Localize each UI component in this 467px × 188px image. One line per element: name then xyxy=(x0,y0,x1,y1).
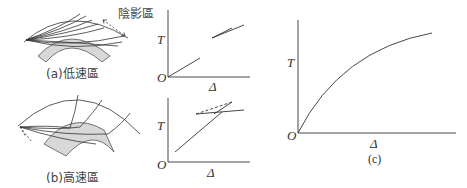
direct-branch xyxy=(168,58,200,77)
panel-a-x-label: Δ xyxy=(209,79,217,95)
panel-b-y-label: T xyxy=(157,118,164,134)
direct-branch xyxy=(175,112,222,152)
panel-a-origin-label: O xyxy=(157,70,166,86)
panel-c-y-label: T xyxy=(287,55,294,71)
panel-a-y-label: T xyxy=(157,32,164,48)
axes xyxy=(298,20,456,133)
axes xyxy=(168,98,250,162)
panel-b-origin-label: O xyxy=(157,157,166,173)
panel-b-x-label: Δ xyxy=(207,165,215,181)
panel-c-graph xyxy=(298,20,456,133)
panel-b-graph xyxy=(168,98,250,162)
panel-b-caption: (b)高速區 xyxy=(46,168,99,185)
panel-c-caption: (c) xyxy=(368,152,381,167)
panel-a-graph xyxy=(168,10,250,77)
panel-c-origin-label: O xyxy=(287,128,296,144)
axes xyxy=(168,10,250,77)
panel-c-x-label: Δ xyxy=(370,136,378,152)
panel-b-ray-diagram xyxy=(18,95,140,156)
panel-a-ray-diagram xyxy=(24,14,128,62)
shadow-zone-label: 陰影區 xyxy=(118,4,154,21)
high-velocity-zone xyxy=(44,123,114,156)
travel-time-curve xyxy=(298,33,432,133)
diagram-canvas xyxy=(0,0,467,188)
retro-branch xyxy=(212,25,244,38)
panel-a-caption: (a)低速區 xyxy=(46,64,99,81)
